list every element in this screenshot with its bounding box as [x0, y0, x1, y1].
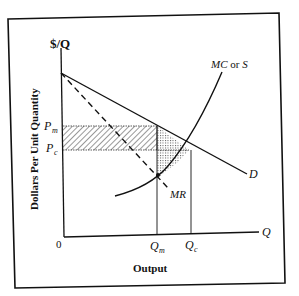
pm-sub: m: [52, 126, 58, 135]
pc-label: P c: [45, 141, 58, 157]
y-axis-title: Dollars Per Unit Quantity: [28, 88, 40, 210]
economics-diagram: $/Q Dollars Per Unit Quantity 0 Output Q…: [0, 0, 299, 296]
pc-main: P: [45, 141, 54, 155]
mr-label: MR: [169, 188, 186, 200]
mc-label-suffix: S: [242, 58, 248, 70]
origin-label: 0: [56, 238, 62, 250]
demand-label: D: [248, 167, 258, 181]
x-axis-symbol: Q: [262, 225, 271, 239]
mr-mc-intersection: [156, 173, 160, 177]
qc-main: Q: [185, 238, 194, 252]
qm-sub: m: [159, 246, 165, 255]
qm-label: Q m: [150, 239, 165, 255]
demand-curve: [61, 73, 247, 174]
pm-label: P m: [43, 119, 58, 135]
mc-label-prefix: MC: [210, 58, 228, 70]
qc-sub: c: [194, 245, 198, 254]
mc-label: MC or S: [210, 58, 248, 70]
qc-label: Q c: [185, 238, 198, 254]
pm-main: P: [43, 119, 52, 133]
pc-sub: c: [54, 148, 58, 157]
x-axis-title: Output: [133, 262, 168, 274]
mc-label-or: or: [228, 58, 243, 70]
hatched-area: [63, 126, 157, 150]
y-axis-symbol: $/Q: [50, 36, 70, 51]
qm-main: Q: [150, 239, 159, 253]
x-axis: [64, 232, 259, 237]
